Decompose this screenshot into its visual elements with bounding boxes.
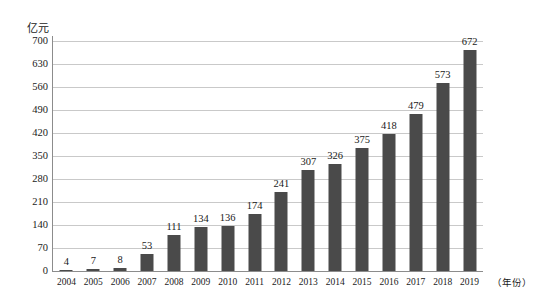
y-axis-tick-label: 630	[2, 59, 48, 70]
bar-group: 53	[134, 41, 160, 271]
bar-group: 8	[107, 41, 133, 271]
bar	[221, 226, 234, 271]
y-axis-tick-label: 420	[2, 128, 48, 139]
bar-value-label: 241	[274, 178, 290, 189]
bar	[329, 164, 342, 271]
bar	[141, 254, 154, 271]
bar	[167, 235, 180, 271]
bar-value-label: 134	[193, 213, 209, 224]
bar	[114, 268, 127, 271]
bar	[302, 170, 315, 271]
bar	[409, 114, 422, 271]
bar-group: 326	[322, 41, 348, 271]
bar-group: 111	[161, 41, 187, 271]
bar-group: 241	[268, 41, 294, 271]
x-axis-tick-label: 2019	[453, 276, 487, 288]
y-axis-tick-label: 0	[2, 266, 48, 277]
bar-value-label: 111	[166, 221, 181, 232]
bar-group: 573	[430, 41, 456, 271]
y-axis-tick-label: 210	[2, 197, 48, 208]
bar	[275, 192, 288, 271]
bar	[87, 269, 100, 271]
x-axis-title: （年份）	[492, 277, 532, 289]
bar-group: 7	[80, 41, 106, 271]
bar-value-label: 479	[408, 100, 424, 111]
bar	[60, 270, 73, 272]
y-axis-tick-labels: 070140210280350420490560630700	[0, 41, 48, 271]
bar-group: 479	[403, 41, 429, 271]
bar-value-label: 8	[118, 254, 123, 265]
bar-group: 672	[457, 41, 483, 271]
bar-series: 4785311113413617424130732637541847957367…	[53, 41, 483, 271]
bar-value-label: 307	[300, 156, 316, 167]
bar-value-label: 418	[381, 120, 397, 131]
bar-group: 4	[53, 41, 79, 271]
x-axis-tick-labels: 2004200520062007200820092010201120122013…	[53, 276, 483, 292]
y-axis-tick-label: 70	[2, 243, 48, 254]
bar-value-label: 672	[462, 36, 478, 47]
y-axis-tick-label: 560	[2, 82, 48, 93]
y-axis-tick-label: 140	[2, 220, 48, 231]
y-axis-unit-label: 亿元	[27, 22, 49, 35]
bar-group: 134	[188, 41, 214, 271]
y-axis-tick-label: 700	[2, 36, 48, 47]
bar-group: 174	[242, 41, 268, 271]
bar-group: 418	[376, 41, 402, 271]
bar-chart: 亿元 070140210280350420490560630700 478531…	[0, 0, 547, 308]
x-axis-baseline	[53, 271, 483, 272]
y-axis-tick-label: 490	[2, 105, 48, 116]
bar-value-label: 53	[142, 240, 153, 251]
bar-value-label: 4	[64, 256, 69, 267]
y-axis-tick-label: 350	[2, 151, 48, 162]
y-axis-tick-label: 280	[2, 174, 48, 185]
bar-group: 307	[295, 41, 321, 271]
bar-group: 136	[215, 41, 241, 271]
bar	[382, 134, 395, 271]
bar	[463, 50, 476, 271]
bar	[194, 227, 207, 271]
bar-value-label: 573	[435, 69, 451, 80]
bar	[436, 83, 449, 271]
bar-value-label: 7	[91, 255, 96, 266]
bar	[248, 214, 261, 271]
bar-value-label: 136	[220, 212, 236, 223]
bar-value-label: 174	[247, 200, 263, 211]
bar-value-label: 326	[327, 150, 343, 161]
bar-value-label: 375	[354, 134, 370, 145]
bar-group: 375	[349, 41, 375, 271]
bar	[356, 148, 369, 271]
